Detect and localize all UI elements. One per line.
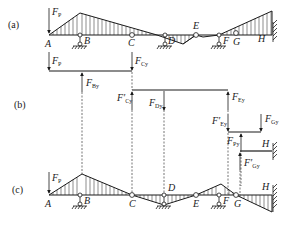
point-label-h-c: H [261, 181, 270, 192]
point-label-a: A [44, 38, 52, 49]
label-fby-b: FBy [85, 77, 99, 89]
hinge-g-a [234, 31, 239, 36]
label-fcy-b: FCy [134, 55, 148, 67]
label-fey-prime-b: F′Ey [211, 115, 227, 127]
label-fp-c: FP [51, 172, 62, 184]
label-fgy-prime-b: F′Gy [243, 157, 260, 169]
fixed-support-h-a [273, 20, 277, 42]
label-fdy-b: FDy [148, 97, 162, 109]
point-label-b: B [84, 35, 90, 46]
point-label-e: E [192, 20, 199, 31]
part-c-moment-diagram: (c) [12, 172, 277, 212]
point-label-b-c: B [84, 195, 90, 206]
part-a-label: (a) [8, 19, 19, 31]
point-label-e-c: E [192, 198, 199, 209]
point-label-g-c: G [234, 198, 241, 209]
hinge-g-c [234, 193, 239, 198]
point-label-c: C [128, 37, 135, 48]
point-label-c-c: C [129, 198, 136, 209]
part-a-moment-diagram: (a) [8, 6, 277, 49]
label-fcy-prime-b: F′Cy [116, 92, 132, 104]
multi-span-beam-figure: (a) [0, 0, 288, 225]
hinge-e-c [194, 193, 199, 198]
part-c-label: (c) [12, 184, 23, 196]
point-label-h-b: H [261, 138, 270, 149]
point-label-d-c: D [167, 182, 176, 193]
fixed-support-h-b [273, 142, 277, 160]
label-fp-b: FP [51, 55, 62, 67]
label-fp-a: FP [51, 6, 62, 18]
point-label-a-c: A [44, 198, 52, 209]
label-fey-b: FEy [231, 91, 245, 103]
label-fgy-b: FGy [264, 113, 278, 125]
point-label-h: H [257, 33, 266, 44]
point-label-f: F [222, 35, 230, 46]
point-label-d: D [167, 35, 176, 46]
fixed-support-h-c [273, 184, 277, 212]
part-b-label: (b) [14, 99, 26, 111]
point-label-g: G [233, 36, 240, 47]
beam-diagram: (a) [0, 0, 288, 225]
hinge-c-c [130, 193, 135, 198]
hinge-e-a [194, 33, 199, 38]
point-label-f-c: F [222, 195, 230, 206]
